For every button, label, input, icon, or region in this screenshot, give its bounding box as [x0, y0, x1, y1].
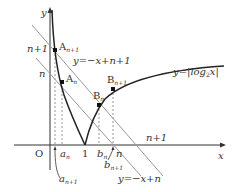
line-lower	[36, 58, 141, 176]
a-n1-label: an+1	[59, 173, 78, 185]
point-b-n	[97, 103, 101, 107]
point-a-n1	[53, 48, 57, 52]
point-a-n1-label: An+1	[58, 41, 79, 53]
tick-one-label: 1	[82, 148, 88, 159]
point-b-n1	[111, 87, 115, 91]
x-intercept-n-label: n	[116, 148, 122, 159]
point-b-n-label: Bn	[93, 90, 104, 102]
y-axis-label: y	[40, 7, 47, 18]
y-intercept-n1-label: n+1	[27, 43, 48, 54]
x-axis-label: x	[218, 150, 224, 161]
pointer-b-n1-arrow-icon	[112, 146, 115, 150]
origin-label: O	[35, 148, 43, 159]
pointer-a-n1-arrow-icon	[54, 146, 57, 150]
point-a-n	[60, 80, 64, 84]
y-intercept-n-label: n	[39, 68, 45, 79]
line-lower-label: y=−x+n	[117, 173, 161, 184]
x-intercept-n1-label: n+1	[146, 132, 167, 143]
x-axis-arrow-icon	[220, 143, 226, 148]
b-n1-label: bn+1	[104, 159, 123, 171]
point-b-n1-label: Bn+1	[107, 74, 127, 86]
diagram-canvas: y x O 1 n+1 n An+1 An Bn Bn+1 y=−x+n+1 y…	[0, 0, 237, 192]
a-n-label: an	[60, 148, 70, 160]
line-upper-label: y=−x+n+1	[72, 55, 131, 66]
curve-label: y=|log2x|	[172, 66, 219, 78]
